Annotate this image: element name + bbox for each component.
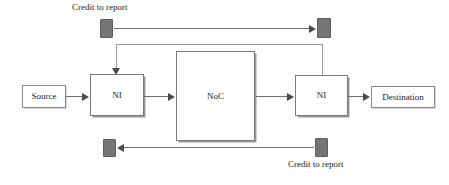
node-ni-right[interactable]: NI (295, 75, 348, 116)
diagram-canvas: Credit to report Credit to report Source… (0, 0, 449, 185)
credit-marker-bottom-left (103, 139, 116, 157)
credit-bottom-flow-arrowhead (117, 144, 124, 152)
feedback-top-segment (116, 44, 323, 45)
credit-marker-top-right (317, 18, 331, 38)
node-source[interactable]: Source (22, 85, 66, 108)
credit-to-report-top-label: Credit to report (72, 3, 128, 12)
credit-top-flow-arrowhead (309, 25, 316, 33)
node-ni-right-label: NI (317, 91, 327, 100)
noc-to-ni-right-line (256, 96, 288, 97)
credit-to-report-bottom-label: Credit to report (288, 160, 344, 169)
node-ni-left[interactable]: NI (90, 74, 144, 116)
feedback-drop-left (116, 44, 117, 70)
ni-left-to-noc-line (144, 96, 169, 97)
credit-bottom-flow-line (123, 147, 314, 148)
credit-marker-bottom-right (315, 138, 328, 157)
source-to-ni-left-line (66, 96, 83, 97)
credit-top-flow-line (114, 28, 311, 29)
ni-right-to-destination-line (348, 96, 364, 97)
feedback-riser-right (322, 44, 323, 76)
node-noc-label: NoC (207, 92, 224, 101)
node-source-label: Source (32, 92, 57, 101)
node-destination-label: Destination (382, 93, 424, 102)
ni-right-to-destination-arrowhead (363, 93, 370, 101)
source-to-ni-left-arrowhead (82, 93, 89, 101)
node-destination[interactable]: Destination (371, 86, 435, 108)
noc-to-ni-right-arrowhead (287, 93, 294, 101)
credit-marker-top-left (100, 19, 113, 38)
ni-left-to-noc-arrowhead (168, 93, 175, 101)
node-noc[interactable]: NoC (176, 51, 255, 141)
node-ni-left-label: NI (112, 91, 122, 100)
